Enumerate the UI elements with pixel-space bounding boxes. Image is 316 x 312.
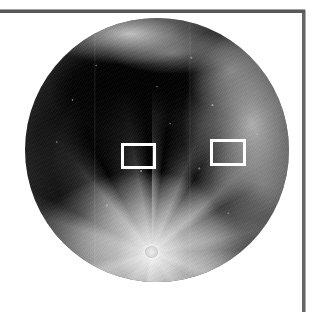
southern-highlands: [25, 18, 289, 282]
northern-rim: [25, 18, 289, 282]
eastern-highlands: [25, 18, 289, 282]
film-grain: [25, 18, 289, 282]
scan-streaks: [25, 18, 289, 282]
maria-regions: [25, 18, 289, 282]
moon-disc: [25, 18, 289, 282]
page-rule-top: [0, 10, 305, 13]
roi-box-left: [121, 143, 156, 169]
roi-box-right: [210, 139, 246, 166]
tycho-crater: [145, 246, 158, 258]
tycho-ray-system: [25, 18, 289, 282]
moon-photograph: [25, 18, 289, 282]
page-rule-right: [302, 10, 305, 312]
surface-texture: [25, 18, 289, 282]
figure-page: [0, 0, 316, 312]
